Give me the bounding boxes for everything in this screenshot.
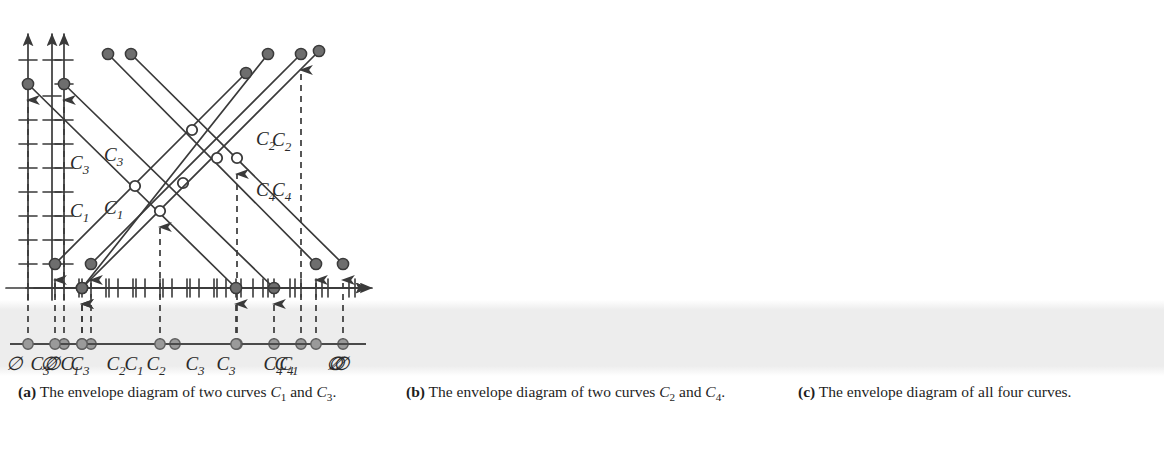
caption-a: (a) The envelope diagram of two curves C… xyxy=(18,382,366,405)
caption-b-pre: curves xyxy=(615,383,659,400)
caption-b-c1-base: C xyxy=(659,383,669,400)
caption-a-c1-base: C xyxy=(270,383,280,400)
curve-label-c-C2: C2 xyxy=(256,128,276,153)
caption-c: (c) The envelope diagram of all four cur… xyxy=(798,382,1146,402)
caption-b-line1: The envelope diagram of two xyxy=(429,383,612,400)
subfigure-b: C2 C4 ∅ C2 C4 ∅ (b) The envelope diagram… xyxy=(388,0,772,450)
caption-b-c2-base: C xyxy=(705,383,715,400)
caption-a-line1: The envelope diagram of two xyxy=(40,383,223,400)
caption-a-pre: curves xyxy=(226,383,270,400)
plot-area-b: C2 C4 ∅ C2 C4 ∅ xyxy=(388,0,772,378)
envelope-diagram-figure: C3 C1 ∅ C3 C1 C3 C1 ∅ (a) The envelope d… xyxy=(0,0,1164,450)
caption-b-end: . xyxy=(721,383,725,400)
env-label-c-0: ∅ xyxy=(6,353,24,374)
caption-b: (b) The envelope diagram of two curves C… xyxy=(406,382,754,405)
caption-c-end: . xyxy=(1068,383,1072,400)
caption-b-tag: (b) xyxy=(406,383,425,400)
caption-c-tag: (c) xyxy=(798,383,815,400)
endpoints-c xyxy=(22,48,321,293)
caption-c-line1: The envelope diagram of all four xyxy=(819,383,1023,400)
plot-area-c: C3 C1 C2 C4 ∅ C3 C1 C2 C3 C4 ∅ xyxy=(780,0,1164,378)
caption-a-tag: (a) xyxy=(18,383,36,400)
curve-label-c-C1: C1 xyxy=(70,200,89,225)
caption-c-pre: curves xyxy=(1027,383,1067,400)
env-label-c-2: C1 xyxy=(60,353,79,378)
subfigure-c: C3 C1 C2 C4 ∅ C3 C1 C2 C3 C4 ∅ (c) The e… xyxy=(780,0,1164,450)
caption-a-end: . xyxy=(332,383,336,400)
caption-a-c2-base: C xyxy=(316,383,326,400)
curve-c-C2 xyxy=(82,54,268,288)
caption-b-mid: and xyxy=(675,383,705,400)
curve-label-c-C4: C4 xyxy=(256,179,276,204)
env-label-c-4: C3 xyxy=(185,353,205,378)
env-label-c-5: C4 xyxy=(263,353,283,378)
env-label-c-3: C2 xyxy=(106,353,126,378)
env-label-c-6: ∅ xyxy=(326,353,344,374)
env-label-c-1: C3 xyxy=(30,353,50,378)
curve-label-c-C3: C3 xyxy=(70,152,90,177)
caption-a-mid: and xyxy=(286,383,316,400)
